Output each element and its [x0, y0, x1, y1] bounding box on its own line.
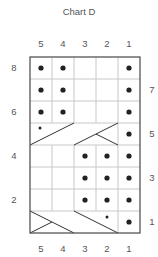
cable-right-cross-icon: [30, 123, 74, 145]
purl-dot-icon: [126, 109, 131, 114]
top-column-labels: 5 4 3 2 1: [38, 38, 131, 49]
purl-dot-icon: [126, 175, 131, 180]
row-label: 7: [149, 84, 154, 95]
purl-dot-icon: [126, 87, 131, 92]
purl-dot-icon: [126, 219, 131, 224]
column-label: 4: [60, 38, 65, 49]
right-row-labels: 7 5 3 1: [149, 84, 154, 227]
purl-dot-icon: [126, 197, 131, 202]
row-label: 4: [11, 150, 16, 161]
row-label: 2: [11, 194, 16, 205]
purl-dot-icon: [82, 197, 87, 202]
purl-dot-icon: [126, 131, 131, 136]
row-label: 8: [11, 62, 16, 73]
purl-dot-icon: [82, 153, 87, 158]
column-label: 2: [104, 38, 109, 49]
purl-dot-icon: [104, 197, 109, 202]
row-label: 1: [149, 216, 154, 227]
small-purl-dot-icon: [39, 127, 42, 130]
column-label: 5: [38, 243, 43, 254]
purl-dot-icon: [126, 65, 131, 70]
column-label: 4: [60, 243, 65, 254]
column-label: 1: [126, 243, 131, 254]
column-label: 3: [82, 38, 87, 49]
column-label: 5: [38, 38, 43, 49]
purl-dot-icon: [60, 109, 65, 114]
column-label: 2: [104, 243, 109, 254]
purl-dot-icon: [38, 65, 43, 70]
purl-dot-icon: [82, 175, 87, 180]
cable-right-cross-icon: [30, 222, 52, 233]
bottom-column-labels: 5 4 3 2 1: [38, 243, 131, 254]
purl-dot-icon: [104, 153, 109, 158]
row-label: 3: [149, 172, 154, 183]
row-label: 5: [149, 128, 154, 139]
row-label: 6: [11, 106, 16, 117]
left-row-labels: 8 6 4 2: [11, 62, 16, 205]
purl-dot-icon: [38, 109, 43, 114]
grid-lines: [30, 57, 140, 233]
purl-dot-icon: [38, 87, 43, 92]
column-label: 1: [126, 38, 131, 49]
purl-dot-icon: [60, 65, 65, 70]
purl-dot-icon: [104, 175, 109, 180]
small-purl-dot-icon: [106, 216, 109, 219]
cable-left-cross-icon: [74, 211, 118, 233]
column-label: 3: [82, 243, 87, 254]
purl-dot-icon: [126, 153, 131, 158]
purl-dot-icon: [60, 87, 65, 92]
knitting-chart: 5 4 3 2 1 5 4 3 2 1 8 6 4 2 7 5 3 1: [0, 0, 158, 257]
cable-left-cross-icon: [96, 134, 118, 145]
